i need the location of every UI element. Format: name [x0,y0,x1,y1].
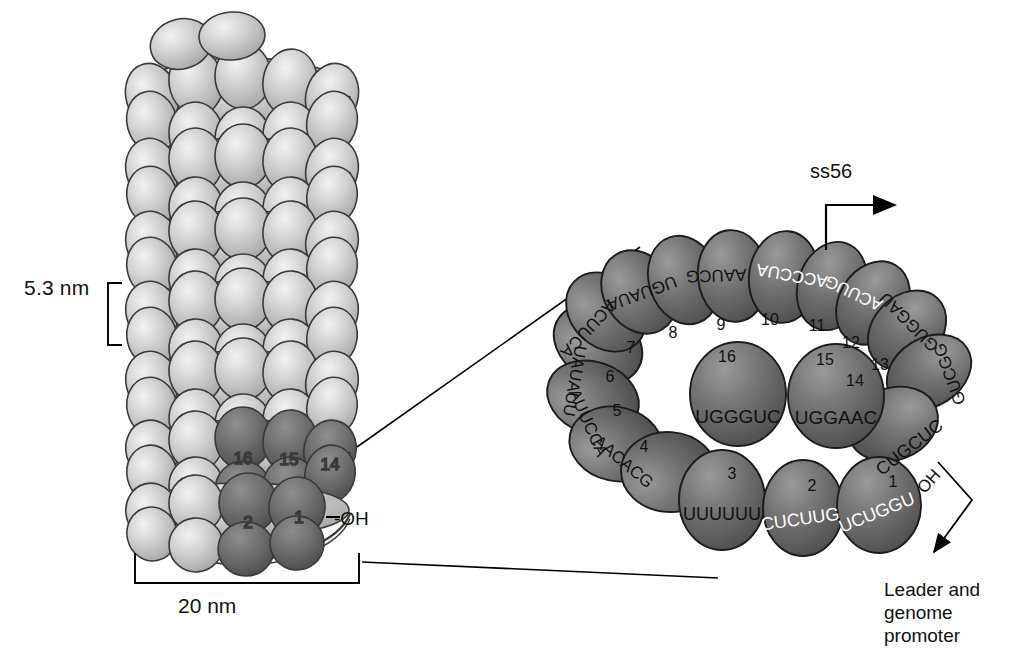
ring-subunit-16 [690,342,786,446]
ring-number-4: 4 [640,438,649,455]
rod-subunit-number-16: 16 [234,449,253,468]
rod-subunit-number-2: 2 [243,513,252,532]
rod-subunit-number-14: 14 [321,455,340,474]
ring-number-1: 1 [889,473,898,490]
disc-ring-top-view: 1 2 3 4 5 6 7 8 9 10 11 12 13 14 15 16 U… [537,205,986,556]
ring-number-15: 15 [816,351,834,368]
ring-subunit-15 [788,344,884,448]
rod-subunit-number-1: 1 [294,508,303,527]
ring-number-2: 2 [808,477,817,494]
rod-disc-1: 2 1 [120,472,350,576]
ring-number-13: 13 [871,356,889,373]
ring-number-7: 7 [627,339,636,356]
ring-number-3: 3 [728,465,737,482]
ring-sequence-15: UGGAAC [795,407,877,428]
rod-oh-terminus-label: -OH [334,508,369,530]
ring-sequence-9: AAUCG [686,265,747,286]
ring-number-12: 12 [842,334,860,351]
helical-rod-assembly: 16 15 14 [108,10,366,583]
ring-sequence-16: UGGGUC [695,406,781,427]
ring-number-8: 8 [669,324,678,341]
ring-number-16: 16 [718,348,736,365]
ring-number-11: 11 [809,317,826,334]
ring-number-5: 5 [613,402,622,419]
scale-label-vertical: 5.3 nm [24,276,89,300]
rod-disc-stack: 16 15 14 [118,10,366,576]
leader-genome-promoter-label: Leader and genome promoter [884,578,980,647]
ring-number-6: 6 [606,368,615,385]
ring-sequence-3: UUUUUU [683,504,761,524]
rod-subunit-number-15: 15 [280,450,299,469]
ring-number-10: 10 [761,311,779,328]
ring-subunit-3 [679,450,765,550]
ring-number-9: 9 [717,316,726,333]
scale-bracket-vertical [108,283,122,345]
diagram-svg: 16 15 14 [0,0,1016,657]
ss56-label: ss56 [810,160,852,183]
scale-label-horizontal: 20 nm [178,594,236,618]
ring-number-14: 14 [846,372,864,389]
figure-canvas: 16 15 14 [0,0,1016,657]
